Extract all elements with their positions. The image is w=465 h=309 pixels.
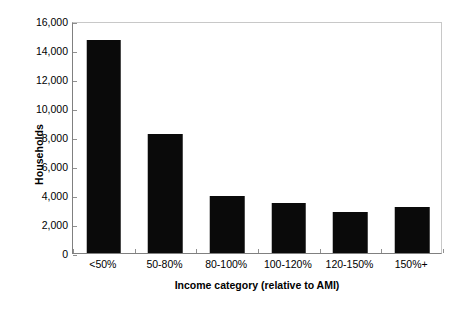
bar[interactable] bbox=[87, 40, 122, 253]
bars-layer bbox=[73, 23, 441, 253]
y-axis-tick-label: 8,000 bbox=[42, 132, 68, 144]
y-axis-tick-label: 2,000 bbox=[42, 219, 68, 231]
y-axis-tick-label: 16,000 bbox=[36, 16, 68, 28]
y-axis-tick-label: 4,000 bbox=[42, 190, 68, 202]
x-axis-tick-label: 50-80% bbox=[134, 258, 196, 270]
bar-slot bbox=[320, 23, 382, 253]
x-axis-tick-label: 120-150% bbox=[319, 258, 381, 270]
y-axis-tick-label: 6,000 bbox=[42, 161, 68, 173]
x-axis-tick-label: 100-120% bbox=[257, 258, 319, 270]
bar-chart: Households 02,0004,0006,0008,00010,00012… bbox=[0, 0, 465, 309]
x-axis-tick-label: <50% bbox=[72, 258, 134, 270]
bar-slot bbox=[381, 23, 443, 253]
bar[interactable] bbox=[333, 212, 368, 253]
y-axis-tick-label: 12,000 bbox=[36, 74, 68, 86]
x-axis-title: Income category (relative to AMI) bbox=[72, 279, 442, 291]
bar[interactable] bbox=[272, 203, 307, 253]
x-axis-tick-mark bbox=[443, 249, 444, 253]
y-axis-tick-label: 0 bbox=[62, 248, 68, 260]
x-axis-tick-label: 150%+ bbox=[380, 258, 442, 270]
bar[interactable] bbox=[148, 134, 183, 253]
y-axis-tick-label: 10,000 bbox=[36, 103, 68, 115]
bar-slot bbox=[196, 23, 258, 253]
bar[interactable] bbox=[395, 207, 430, 253]
y-axis-tick-labels: 02,0004,0006,0008,00010,00012,00014,0001… bbox=[14, 22, 68, 254]
bar-slot bbox=[73, 23, 135, 253]
bar-slot bbox=[258, 23, 320, 253]
plot-area bbox=[72, 22, 442, 254]
x-axis-tick-label: 80-100% bbox=[195, 258, 257, 270]
bar-slot bbox=[135, 23, 197, 253]
x-axis-tick-labels: <50%50-80%80-100%100-120%120-150%150%+ bbox=[72, 258, 442, 274]
y-axis-tick-label: 14,000 bbox=[36, 45, 68, 57]
y-axis-tick-mark bbox=[73, 255, 77, 256]
bar[interactable] bbox=[210, 196, 245, 253]
